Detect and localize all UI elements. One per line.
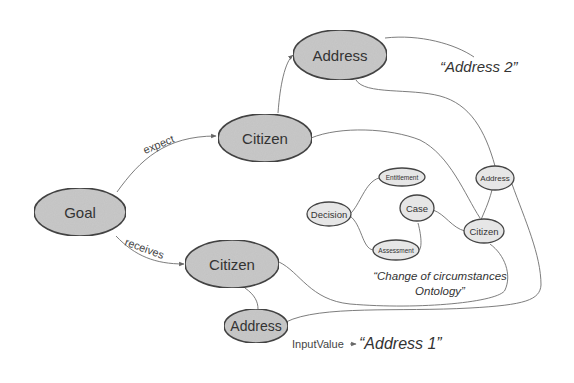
value-address-2: “Address 2”: [440, 58, 519, 75]
node-address-bottom-label: Address: [230, 318, 281, 334]
edge-label-expect: expect: [141, 133, 176, 156]
node-address-top-label: Address: [312, 47, 367, 64]
node-address-top[interactable]: Address: [293, 30, 387, 80]
ontology-caption-line1: “Change of circumstances: [373, 270, 507, 282]
edge-address-top-ontology: [356, 80, 495, 166]
ontology-diagram: expect receives InputValue Goal Citizen …: [0, 0, 574, 383]
edge-citizen-address-top: [278, 55, 293, 113]
node-ontology-assessment-label: Assessment: [378, 247, 414, 254]
node-ontology-entitlement[interactable]: Entitlement: [379, 168, 425, 186]
edge-decision-entitlement: [350, 178, 379, 214]
node-citizen-expect-label: Citizen: [242, 130, 288, 147]
ontology-caption-line2: Ontology”: [415, 285, 466, 297]
edge-address-to-value2: [385, 37, 474, 57]
node-ontology-assessment[interactable]: Assessment: [373, 240, 419, 260]
node-goal[interactable]: Goal: [34, 188, 126, 236]
value-address-1: “Address 1”: [359, 335, 442, 352]
edge-decision-assessment: [350, 216, 373, 250]
node-address-bottom[interactable]: Address: [224, 309, 288, 343]
node-citizen-receives[interactable]: Citizen: [185, 240, 279, 288]
edge-citizen-address-bottom: [245, 288, 258, 309]
node-ontology-citizen[interactable]: Citizen: [464, 219, 504, 243]
node-citizen-receives-label: Citizen: [209, 256, 255, 273]
edge-onto-address-citizen: [481, 190, 492, 220]
node-citizen-expect[interactable]: Citizen: [218, 114, 312, 162]
node-ontology-entitlement-label: Entitlement: [386, 174, 419, 181]
edge-label-input-value: InputValue: [292, 338, 344, 350]
node-ontology-decision[interactable]: Decision: [307, 202, 351, 226]
node-ontology-decision-label: Decision: [311, 209, 347, 220]
node-ontology-address[interactable]: Address: [476, 166, 514, 190]
node-ontology-case[interactable]: Case: [400, 195, 434, 221]
edge-case-citizen: [433, 210, 465, 231]
node-ontology-address-label: Address: [480, 174, 509, 183]
node-ontology-citizen-label: Citizen: [469, 226, 498, 237]
node-ontology-case-label: Case: [406, 203, 428, 214]
node-goal-label: Goal: [64, 204, 96, 221]
